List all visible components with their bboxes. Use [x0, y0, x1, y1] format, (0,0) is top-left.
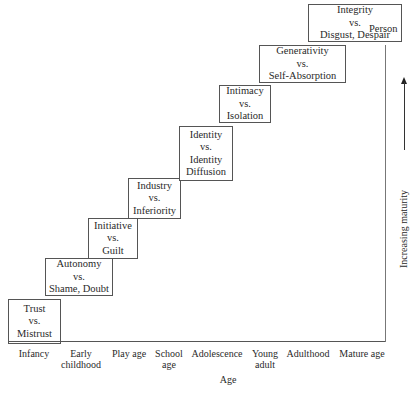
- x-axis-line: [8, 341, 386, 342]
- stage-line: Diffusion: [186, 166, 226, 179]
- stage-box-identity: Identity vs. Identity Diffusion: [179, 126, 233, 181]
- stage-line: Integrity: [337, 4, 373, 17]
- x-tick-line: childhood: [61, 359, 101, 370]
- stage-box-trust: Trust vs. Mistrust: [8, 299, 61, 344]
- stage-line: Shame, Doubt: [49, 283, 109, 296]
- stage-box-initiative: Initiative vs. Guilt: [88, 218, 138, 259]
- stage-line: Intimacy: [226, 85, 263, 98]
- stage-line: vs.: [73, 271, 85, 284]
- y-axis-line: [385, 45, 386, 342]
- stage-line: vs.: [200, 141, 212, 154]
- x-tick-line: Infancy: [19, 348, 50, 359]
- stage-box-autonomy: Autonomy vs. Shame, Doubt: [45, 258, 113, 296]
- stage-line: Identity: [190, 154, 223, 167]
- x-tick-line: age: [155, 359, 183, 370]
- y-axis-title-wrap: Increasing maturity: [398, 98, 412, 268]
- stage-line: Initiative: [94, 220, 132, 233]
- x-tick-line: Early: [61, 348, 101, 359]
- x-tick-line: Mature age: [339, 348, 384, 359]
- x-tick-adulthood: Adulthood: [287, 348, 330, 359]
- stage-box-generativity: Generativity vs. Self-Absorption: [259, 45, 346, 83]
- x-tick-mature-age: Mature age: [339, 348, 384, 359]
- stage-line: Self-Absorption: [269, 70, 337, 83]
- x-axis-title: Age: [220, 374, 237, 385]
- stage-box-intimacy: Intimacy vs. Isolation: [219, 85, 271, 123]
- x-tick-line: adult: [252, 359, 278, 370]
- x-tick-line: Adulthood: [287, 348, 330, 359]
- x-tick-line: Play age: [112, 348, 146, 359]
- x-tick-school-age: School age: [155, 348, 183, 370]
- stage-line: Isolation: [227, 110, 264, 123]
- x-tick-early-childhood: Early childhood: [61, 348, 101, 370]
- stage-line: vs.: [107, 232, 119, 245]
- stage-line: Industry: [137, 180, 172, 193]
- stage-line: Autonomy: [57, 258, 102, 271]
- x-tick-line: School: [155, 348, 183, 359]
- stage-line: vs.: [297, 58, 309, 71]
- x-tick-play-age: Play age: [112, 348, 146, 359]
- person-label: Person: [369, 23, 398, 34]
- stage-line: Inferiority: [133, 205, 176, 218]
- y-axis-title: Increasing maturity: [398, 190, 410, 268]
- stage-line: vs.: [149, 192, 161, 205]
- x-tick-line: Young: [252, 348, 278, 359]
- stage-line: vs.: [29, 315, 41, 328]
- stage-line: Identity: [190, 129, 223, 142]
- x-tick-infancy: Infancy: [19, 348, 50, 359]
- stage-line: vs.: [349, 17, 361, 30]
- x-tick-line: Adolescence: [191, 348, 242, 359]
- x-tick-adolescence: Adolescence: [191, 348, 242, 359]
- x-tick-young-adult: Young adult: [252, 348, 278, 370]
- stage-line: vs.: [239, 98, 251, 111]
- stage-box-industry: Industry vs. Inferiority: [128, 178, 181, 219]
- stage-line: Trust: [24, 303, 46, 316]
- stage-line: Mistrust: [17, 328, 52, 341]
- stage-line: Guilt: [102, 245, 124, 258]
- stage-line: Generativity: [276, 45, 328, 58]
